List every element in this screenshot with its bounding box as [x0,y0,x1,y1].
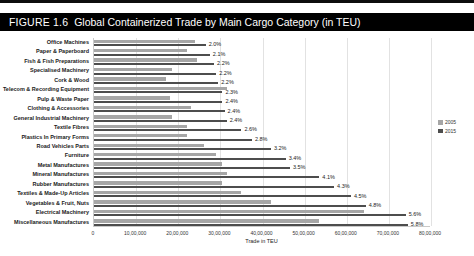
chart-row: Metal Manufactures3.5% [94,161,430,170]
bar-2005 [94,77,166,80]
bar-2005 [94,68,172,71]
bar-2005 [94,106,191,109]
bar-2005 [94,200,271,203]
legend-item: 2005 [438,120,456,125]
category-label: Paper & Paperboard [36,47,89,56]
figure-number: FIGURE 1.6 [9,16,68,28]
bar-2005 [94,191,241,194]
value-label: 5.8% [411,222,424,228]
category-label: Road Vehicles Parts [36,142,89,151]
x-tick-label: 80,00,000 [419,230,441,236]
chart-row: Specialised Machinery2.2% [94,66,430,75]
chart-row: Furniture3.4% [94,151,430,160]
plot-area: Office Machines2.0%Paper & Paperboard2.1… [93,38,430,227]
category-label: Textiles & Made-Up Articles [17,189,89,198]
chart-row: General Industrial Machinery2.4% [94,114,430,123]
figure-title: Global Containerized Trade by Main Cargo… [74,16,360,28]
chart-row: Office Machines2.0% [94,38,430,47]
bar-2015 [94,54,210,56]
bar-2005 [94,181,222,184]
chart-row: Cork & Wood2.2% [94,76,430,85]
chart-row: Paper & Paperboard2.1% [94,47,430,56]
chart-row: Pulp & Waste Paper2.4% [94,95,430,104]
category-label: Office Machines [47,38,89,47]
chart-row: Telecom & Recording Equipment2.3% [94,85,430,94]
chart-legend: 20052015 [438,120,456,134]
bar-2015 [94,148,271,150]
chart-row: Fish & Fish Preparations2.2% [94,57,430,66]
bar-2005 [94,40,195,43]
category-label: Fish & Fish Preparations [24,57,89,66]
legend-swatch-icon [438,120,443,125]
x-tick-label: 70,00,000 [377,230,399,236]
bar-2015 [94,205,366,207]
category-label: Furniture [65,151,89,160]
x-tick-label: 0 [92,230,95,236]
bar-2005 [94,58,197,61]
bar-2005 [94,162,222,165]
bar-2005 [94,134,187,137]
chart-row: Vegetables & Fruit, Nuts4.8% [94,199,430,208]
bar-2015 [94,120,227,122]
bar-2005 [94,115,172,118]
category-label: Vegetables & Fruit, Nuts [26,199,89,208]
bar-2005 [94,96,170,99]
category-label: Electrical Machinery [36,208,89,217]
top-border [0,0,474,3]
chart-row: Rubber Manufactures4.3% [94,180,430,189]
category-label: Metal Manufactures [38,161,89,170]
chart-row: Clothing & Accessories2.4% [94,104,430,113]
category-label: Mineral Manufactures [32,170,89,179]
bar-2015 [94,224,408,226]
figure-title-bar: FIGURE 1.6 Global Containerized Trade by… [0,13,474,31]
category-label: Cork & Wood [54,76,89,85]
gridline [431,38,432,226]
chart-row: Textiles & Made-Up Articles4.5% [94,189,430,198]
chart-row: Textile Fibres2.6% [94,123,430,132]
category-label: Rubber Manufactures [32,180,89,189]
bar-2005 [94,210,364,213]
legend-label: 2015 [445,129,456,134]
chart-row: Plastics In Primary Forms2.8% [94,133,430,142]
category-label: Textile Fibres [54,123,89,132]
x-axis-title: Trade in TEU [93,238,430,244]
bar-2005 [94,87,227,90]
bar-2015 [94,186,334,188]
bar-2015 [94,91,222,93]
legend-swatch-icon [438,129,443,134]
bar-2015 [94,195,351,197]
category-label: Telecom & Recording Equipment [3,85,89,94]
bar-2005 [94,219,319,222]
category-label: Plastics In Primary Forms [21,133,89,142]
bar-2015 [94,129,241,131]
chart-row: Miscellaneous Manufactures5.8% [94,218,430,227]
category-label: Clothing & Accessories [27,104,89,113]
category-label: Specialised Machinery [30,66,89,75]
category-label: Miscellaneous Manufactures [14,218,89,227]
bar-2005 [94,125,187,128]
x-tick-label: 50,00,000 [293,230,315,236]
bar-2005 [94,144,204,147]
bar-2015 [94,139,252,141]
bar-2015 [94,110,225,112]
bar-2015 [94,82,218,84]
bar-2015 [94,63,214,65]
category-label: Pulp & Waste Paper [37,95,89,104]
bar-2015 [94,176,319,178]
legend-item: 2015 [438,129,456,134]
bar-2015 [94,44,206,46]
x-tick-label: 60,00,000 [335,230,357,236]
x-tick-label: 20,00,000 [166,230,188,236]
bar-2015 [94,73,216,75]
chart-row: Road Vehicles Parts3.2% [94,142,430,151]
bar-2015 [94,214,406,216]
x-tick-label: 40,00,000 [250,230,272,236]
bar-2005 [94,172,227,175]
figure-container: FIGURE 1.6 Global Containerized Trade by… [0,0,474,256]
category-label: General Industrial Machinery [14,114,90,123]
x-tick-label: 10,00,000 [124,230,146,236]
bar-2015 [94,167,290,169]
bar-2015 [94,158,286,160]
legend-label: 2005 [445,120,456,125]
bar-2005 [94,49,187,52]
